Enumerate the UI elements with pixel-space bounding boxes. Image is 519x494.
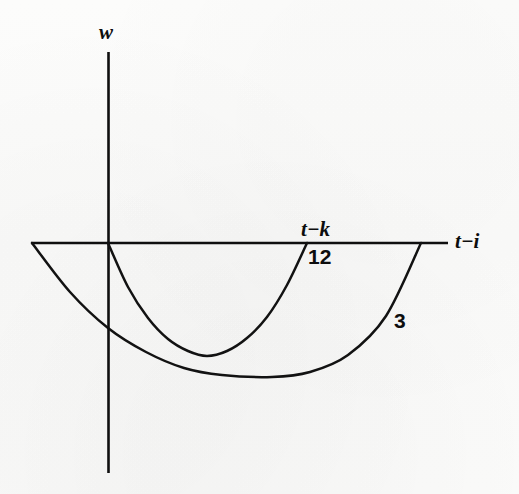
x-axis-label: t−i	[455, 231, 479, 252]
curve-label-3: 3	[394, 310, 406, 331]
curve-inner-12	[108, 243, 307, 356]
curve-outer-3	[32, 243, 421, 377]
x-tick-label-t-minus-k: t−k	[301, 219, 330, 240]
curve-label-12: 12	[308, 246, 331, 267]
y-axis-label: w	[99, 22, 113, 43]
plot-canvas	[0, 0, 519, 494]
figure-root: w t−k 12 t−i 3	[0, 0, 519, 494]
